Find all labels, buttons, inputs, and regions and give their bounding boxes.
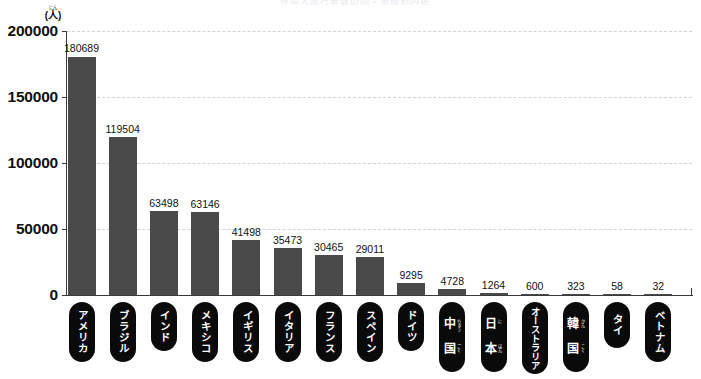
bar-value-label: 32 — [631, 280, 685, 292]
bar-value-label: 180689 — [55, 42, 109, 54]
gridline — [67, 97, 692, 98]
bar-value-label: 119504 — [96, 123, 150, 135]
x-axis-label-furigana: に — [497, 319, 502, 323]
x-axis-label-text: メキシコ — [199, 310, 211, 354]
bar — [603, 294, 631, 295]
x-axis-label-pill: 韓かん国こく — [563, 302, 589, 372]
x-axis-label-text: ベトナム — [653, 310, 665, 354]
bar — [150, 211, 178, 295]
x-axis-label-furigana: ほん — [497, 344, 502, 352]
x-axis-label-char-group: 韓かん — [567, 318, 585, 331]
x-axis-label-kanji: 日 — [485, 318, 497, 331]
x-axis-label-pill: メキシコ — [192, 302, 218, 362]
x-axis-line — [66, 295, 693, 296]
x-axis-label-pill: 中ちゅう国ごく — [439, 302, 465, 372]
x-axis-label-pill: フランス — [316, 302, 342, 362]
x-axis-label-char-group: 本ほん — [485, 343, 503, 356]
x-axis-label-pill: ドイツ — [398, 302, 424, 351]
bar — [109, 137, 137, 295]
y-axis-tick-label-text: 0 — [50, 286, 58, 304]
x-axis-label-furigana: ちゅう — [456, 319, 461, 331]
y-tick-mark — [62, 31, 67, 32]
x-axis-label-furigana: かん — [580, 319, 585, 327]
x-axis-label-text: タイ — [611, 314, 623, 336]
bar — [68, 57, 96, 296]
x-axis-label-pill: ブラジル — [110, 302, 136, 362]
bar — [274, 248, 302, 295]
x-axis-label-pill: インド — [151, 302, 177, 351]
bar-value-label: 63146 — [178, 198, 232, 210]
x-axis-label-char-group: 国ごく — [444, 343, 462, 356]
x-axis-label-pill: イタリア — [275, 302, 301, 362]
bar-value-label: 29011 — [343, 243, 397, 255]
bar — [521, 294, 549, 295]
x-axis-label-pill: イギリス — [233, 302, 259, 362]
x-axis-label-kanji: 本 — [485, 343, 497, 356]
y-tick-mark — [62, 97, 67, 98]
gridline — [67, 163, 692, 164]
x-axis-label-text: ドイツ — [405, 310, 417, 343]
x-axis-label-pill: ベトナム — [645, 302, 671, 362]
x-axis-label-text: イタリア — [282, 310, 294, 354]
chart-title-clipped: 外国人旅行者数の国・地域別内訳 — [120, 0, 590, 5]
y-axis-tick-label-text: 100000 — [7, 154, 58, 172]
y-tick-mark — [62, 163, 67, 164]
bar — [562, 294, 590, 295]
x-axis-label-furigana: ごく — [456, 344, 461, 352]
y-tick-mark — [62, 229, 67, 230]
x-axis-label-text: フランス — [323, 310, 335, 354]
bar — [232, 240, 260, 295]
plot-area — [67, 31, 692, 295]
x-axis-label-char-group: 中ちゅう — [444, 318, 462, 331]
x-axis-label-pill: オーストラリア — [522, 302, 548, 374]
bar-chart: 外国人旅行者数の国・地域別内訳 にん (人) 20000015000010000… — [0, 0, 701, 379]
x-axis-label-text: イギリス — [241, 310, 253, 354]
x-axis-label-pill: スペイン — [357, 302, 383, 362]
x-axis-label-kanji: 国 — [567, 343, 579, 356]
x-axis-label-text: オーストラリア — [530, 307, 540, 370]
x-axis-label-kanji: 中 — [444, 318, 456, 331]
y-axis-tick-label-text: 200000 — [7, 22, 58, 40]
bar — [644, 294, 672, 295]
bar — [356, 257, 384, 295]
bar — [397, 283, 425, 295]
x-axis-label-pill: タイ — [604, 302, 630, 348]
bar — [438, 289, 466, 295]
x-axis-label-kanji: 国 — [444, 343, 456, 356]
y-tick-mark — [62, 295, 67, 296]
gridline — [67, 31, 692, 32]
y-axis-tick-label-text: 50000 — [16, 220, 58, 238]
x-axis-label-text: アメリカ — [76, 310, 88, 354]
x-axis-label-text: インド — [158, 310, 170, 343]
x-axis-label-char-group: 国こく — [567, 343, 585, 356]
x-axis-label-text: ブラジル — [117, 310, 129, 354]
y-axis-unit-text: (人) — [36, 10, 70, 21]
x-axis-label-text: スペイン — [364, 310, 376, 354]
bar — [480, 293, 508, 295]
bar — [315, 255, 343, 295]
x-axis-label-kanji: 韓 — [567, 318, 579, 331]
y-axis-tick-label-text: 150000 — [7, 88, 58, 106]
x-axis-label-furigana: こく — [580, 344, 585, 352]
x-axis-label-pill: 日に本ほん — [481, 302, 507, 372]
x-axis-label-char-group: 日に — [485, 318, 503, 331]
y-axis-unit-label: にん (人) — [36, 5, 70, 21]
x-axis-label-pill: アメリカ — [69, 302, 95, 362]
bar — [191, 212, 219, 295]
